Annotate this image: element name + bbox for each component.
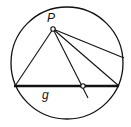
ray-right-chord	[53, 29, 119, 86]
geometry-diagram: P g	[0, 0, 131, 127]
point-p-marker	[51, 27, 55, 31]
ray-upper-right	[53, 29, 124, 58]
ray-left	[15, 29, 53, 86]
circle	[11, 7, 123, 119]
intersection-marker	[81, 84, 85, 88]
label-g: g	[42, 88, 49, 102]
label-p: P	[47, 11, 55, 25]
